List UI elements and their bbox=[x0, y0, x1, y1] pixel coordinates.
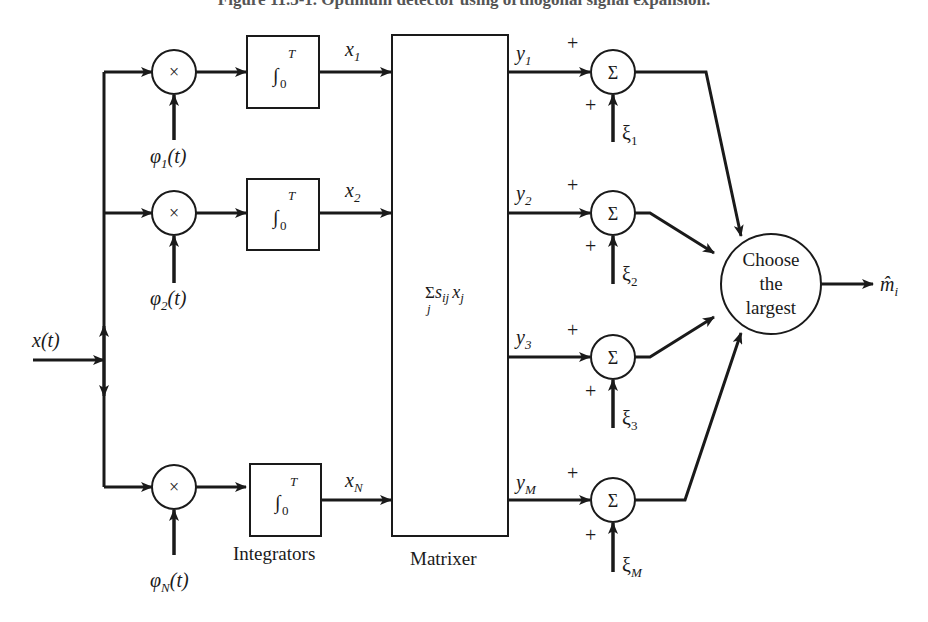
adder-2: y2 + Σ + ξ2 bbox=[508, 174, 637, 289]
adder-1: y1 + Σ + ξ1 bbox=[508, 32, 637, 148]
svg-text:ξ2: ξ2 bbox=[622, 263, 637, 289]
svg-text:y2: y2 bbox=[514, 182, 532, 208]
svg-text:ξ3: ξ3 bbox=[622, 407, 637, 433]
decision-output-label: m̂i bbox=[880, 273, 898, 299]
svg-text:+: + bbox=[585, 524, 596, 546]
svg-text:φ1(t): φ1(t) bbox=[150, 145, 187, 171]
svg-text:largest: largest bbox=[746, 297, 797, 318]
svg-text:x1: x1 bbox=[344, 38, 360, 64]
svg-text:+: + bbox=[585, 380, 596, 402]
branch-2: × φ2(t) ∫ 0 T x2 bbox=[104, 179, 391, 313]
integrator-n bbox=[250, 464, 321, 536]
svg-text:T: T bbox=[290, 474, 298, 489]
sum-icon: Σ bbox=[608, 204, 618, 224]
svg-text:+: + bbox=[567, 319, 578, 341]
multiply-icon: × bbox=[169, 477, 179, 497]
svg-text:T: T bbox=[288, 188, 296, 203]
matrixer-caption: Matrixer bbox=[410, 548, 477, 569]
svg-text:0: 0 bbox=[282, 503, 289, 518]
svg-text:T: T bbox=[288, 46, 296, 61]
svg-text:+: + bbox=[585, 94, 596, 116]
choose-largest-block: Choose the largest m̂i bbox=[721, 234, 898, 334]
svg-text:x2: x2 bbox=[344, 179, 361, 205]
input-label: x(t) bbox=[31, 329, 60, 352]
sum-icon: Σ bbox=[608, 348, 618, 368]
matrixer: Σsijxj j Matrixer bbox=[392, 35, 508, 569]
svg-text:ξM: ξM bbox=[622, 554, 643, 580]
input-signal: x(t) bbox=[31, 329, 104, 360]
svg-text:y1: y1 bbox=[514, 42, 531, 68]
adder-3: y3 + Σ + ξ3 bbox=[508, 319, 637, 433]
branch-n: × φN(t) ∫ 0 T xN Integrators bbox=[104, 464, 391, 595]
svg-text:+: + bbox=[567, 32, 578, 54]
svg-text:xN: xN bbox=[344, 469, 364, 495]
svg-text:+: + bbox=[585, 235, 596, 257]
detector-block-diagram: x(t) × φ1(t) ∫ 0 T x1 × φ2(t) ∫ 0 T x2 bbox=[0, 0, 928, 622]
sum-icon: Σ bbox=[608, 63, 618, 83]
svg-text:0: 0 bbox=[280, 218, 287, 233]
branch-1: × φ1(t) ∫ 0 T x1 bbox=[104, 36, 391, 171]
svg-text:the: the bbox=[759, 273, 782, 294]
svg-text:y3: y3 bbox=[514, 326, 532, 352]
svg-text:ξ1: ξ1 bbox=[622, 122, 637, 148]
sum-icon: Σ bbox=[608, 491, 618, 511]
svg-text:Choose: Choose bbox=[743, 249, 800, 270]
svg-text:+: + bbox=[567, 174, 578, 196]
multiply-icon: × bbox=[169, 203, 179, 223]
svg-text:+: + bbox=[567, 462, 578, 484]
adder-m: yM + Σ + ξM bbox=[508, 462, 643, 580]
svg-text:φN(t): φN(t) bbox=[150, 569, 189, 595]
svg-text:φ2(t): φ2(t) bbox=[150, 287, 187, 313]
integrators-caption: Integrators bbox=[233, 543, 315, 564]
integrator-1 bbox=[247, 36, 319, 108]
integrator-2 bbox=[247, 179, 319, 250]
svg-text:0: 0 bbox=[280, 76, 287, 91]
multiply-icon: × bbox=[169, 62, 179, 82]
svg-text:yM: yM bbox=[514, 471, 537, 497]
